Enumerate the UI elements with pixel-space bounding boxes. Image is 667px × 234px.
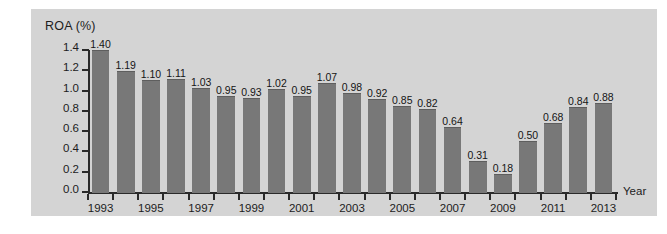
chart-panel: ROA (%) 0.00.20.40.60.81.01.21.4 1993199… <box>31 9 657 216</box>
bar: 1.07 <box>318 83 336 193</box>
x-axis-title: Year <box>623 185 646 197</box>
bar-value-label: 0.82 <box>417 97 437 109</box>
x-tick-label: 1997 <box>188 202 214 214</box>
bar-value-label: 1.19 <box>115 59 135 71</box>
x-tick-label: 2001 <box>289 202 315 214</box>
bar: 1.40 <box>92 50 110 193</box>
chart-title: ROA (%) <box>45 19 96 33</box>
y-tick-label: 0.6 <box>63 122 79 134</box>
x-tick-label: 2009 <box>490 202 516 214</box>
bar: 1.11 <box>167 79 185 193</box>
bar: 1.19 <box>117 71 135 193</box>
bar: 0.31 <box>469 161 487 193</box>
bar-value-label: 1.11 <box>166 67 186 79</box>
x-tick <box>590 194 592 200</box>
x-tick-label: 2003 <box>339 202 365 214</box>
x-tick <box>489 194 491 200</box>
y-tick-label: 1.2 <box>63 61 79 73</box>
x-tick <box>565 194 567 200</box>
x-tick-label: 2011 <box>541 202 566 214</box>
bar-value-label: 0.95 <box>291 84 311 96</box>
bar-value-label: 1.40 <box>90 38 110 50</box>
bar-value-label: 1.07 <box>317 71 337 83</box>
bar: 0.64 <box>444 127 462 193</box>
bar: 0.82 <box>419 109 437 193</box>
x-tick <box>188 194 190 200</box>
x-tick <box>364 194 366 200</box>
bar-value-label: 0.64 <box>442 115 462 127</box>
bar: 0.95 <box>293 96 311 193</box>
y-tick: 0.2 <box>82 171 89 173</box>
bar: 0.92 <box>368 99 386 193</box>
bar-value-label: 0.95 <box>216 84 236 96</box>
bar-value-label: 1.10 <box>141 68 161 80</box>
x-tick-label: 1993 <box>88 202 114 214</box>
x-tick <box>137 194 139 200</box>
y-tick-label: 1.4 <box>63 41 79 53</box>
x-tick <box>112 194 114 200</box>
bar-value-label: 0.93 <box>241 86 261 98</box>
x-tick <box>338 194 340 200</box>
bar: 1.02 <box>268 89 286 193</box>
bar: 0.50 <box>519 141 537 193</box>
y-tick: 1.2 <box>82 69 89 71</box>
y-tick: 1.0 <box>82 90 89 92</box>
bar: 0.68 <box>544 123 562 193</box>
y-tick-label: 0.0 <box>63 183 79 195</box>
y-tick: 0.6 <box>82 130 89 132</box>
x-tick <box>213 194 215 200</box>
bar-value-label: 1.02 <box>266 77 286 89</box>
x-tick-label: 2005 <box>389 202 415 214</box>
x-tick <box>313 194 315 200</box>
bar: 0.84 <box>569 107 587 193</box>
y-tick: 0.8 <box>82 110 89 112</box>
bar-value-label: 1.03 <box>191 76 211 88</box>
x-tick <box>263 194 265 200</box>
bar-value-label: 0.68 <box>543 111 563 123</box>
bar: 0.98 <box>343 93 361 193</box>
x-tick-label: 1999 <box>239 202 265 214</box>
x-tick-label: 2007 <box>440 202 466 214</box>
y-tick-label: 0.4 <box>63 142 79 154</box>
bar: 1.10 <box>142 80 160 193</box>
bar-value-label: 0.98 <box>342 81 362 93</box>
y-tick-label: 0.8 <box>63 102 79 114</box>
bar: 0.93 <box>243 98 261 193</box>
bar-value-label: 0.84 <box>568 95 588 107</box>
x-tick <box>615 194 617 200</box>
x-tick <box>162 194 164 200</box>
x-tick <box>464 194 466 200</box>
bar-value-label: 0.31 <box>467 149 487 161</box>
y-tick: 0.0 <box>82 191 89 193</box>
x-tick-label: 2013 <box>591 202 617 214</box>
bar: 0.85 <box>393 106 411 193</box>
bar: 0.88 <box>595 103 613 193</box>
y-tick: 0.4 <box>82 150 89 152</box>
x-tick-label: 1995 <box>138 202 164 214</box>
x-tick <box>540 194 542 200</box>
bar: 0.18 <box>494 174 512 193</box>
bar-value-label: 0.50 <box>518 129 538 141</box>
y-tick-label: 1.0 <box>63 82 79 94</box>
x-tick <box>439 194 441 200</box>
bar-value-label: 0.18 <box>493 162 513 174</box>
x-tick <box>288 194 290 200</box>
bar: 0.95 <box>217 96 235 193</box>
x-tick <box>238 194 240 200</box>
y-tick-label: 0.2 <box>63 163 79 175</box>
x-tick <box>87 194 89 200</box>
x-tick <box>389 194 391 200</box>
x-tick <box>514 194 516 200</box>
x-tick <box>414 194 416 200</box>
bar: 1.03 <box>192 88 210 193</box>
bar-value-label: 0.92 <box>367 87 387 99</box>
bar-value-label: 0.88 <box>593 91 613 103</box>
bar-value-label: 0.85 <box>392 94 412 106</box>
y-tick: 1.4 <box>82 49 89 51</box>
